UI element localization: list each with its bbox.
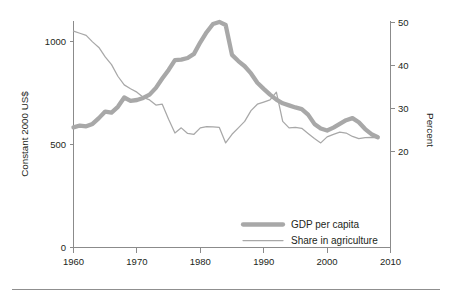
x-axis-ticks: 1960 1970 1980 1990 2000 2010 (63, 248, 401, 268)
right-axis-ticks: 50 40 30 20 (391, 17, 409, 157)
x-tick-label-2000: 2000 (317, 256, 338, 267)
right-tick-label-50: 50 (398, 17, 409, 28)
y-axis-title: Constant 2000 US$ (19, 91, 30, 177)
left-tick-label-0: 0 (61, 242, 66, 253)
series-line-gdp-per-capita (74, 22, 378, 137)
left-tick-label-500: 500 (50, 139, 66, 150)
y2-axis-title: Percent (425, 113, 436, 147)
right-tick-label-40: 40 (398, 60, 409, 71)
figure-container: 0 500 1000 50 40 30 20 1960 1970 1980 (0, 0, 450, 299)
legend-label-share-in-agriculture: Share in agriculture (291, 235, 378, 246)
x-tick-label-1970: 1970 (126, 256, 147, 267)
x-tick-label-1960: 1960 (63, 256, 84, 267)
right-tick-label-20: 20 (398, 146, 409, 157)
x-tick-label-1980: 1980 (190, 256, 211, 267)
left-tick-label-1000: 1000 (45, 36, 66, 47)
x-tick-label-1990: 1990 (253, 256, 274, 267)
line-chart: 0 500 1000 50 40 30 20 1960 1970 1980 (0, 0, 450, 299)
legend-label-gdp-per-capita: GDP per capita (291, 219, 360, 230)
legend: GDP per capita Share in agriculture (243, 219, 378, 246)
x-tick-label-2010: 2010 (380, 256, 401, 267)
right-tick-label-30: 30 (398, 103, 409, 114)
left-axis-ticks: 0 500 1000 (45, 36, 74, 253)
